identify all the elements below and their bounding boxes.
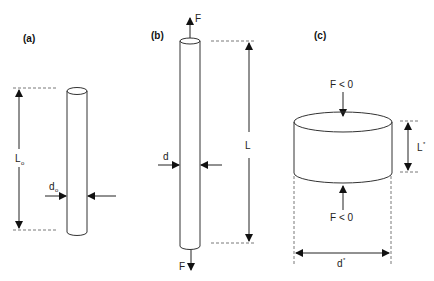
stretched-specimen [180, 38, 200, 250]
diameter-label: d [163, 151, 169, 162]
panel-a: (a) L o d o [13, 33, 116, 235]
compressed-specimen [294, 112, 392, 183]
original-specimen [67, 88, 87, 236]
panel-c: (c) F < 0 F < 0 L * [294, 30, 426, 269]
diameter-label: d [49, 181, 55, 192]
compressive-force-bottom: F < 0 [330, 186, 354, 223]
force-label-bottom: F < 0 [330, 212, 354, 223]
diameter-label: d [337, 258, 343, 269]
diameter-dimension-d: d [158, 151, 222, 165]
length-dimension-l: L [245, 43, 251, 241]
diameter-dimension-d-star: d * [296, 253, 389, 269]
tension-compression-diagram: (a) L o d o (b) F [0, 0, 434, 281]
panel-b-label: (b) [151, 30, 164, 41]
svg-text:o: o [21, 160, 25, 166]
tensile-force-top: F [190, 13, 201, 38]
diameter-dimension-do: d o [45, 181, 116, 196]
svg-text:*: * [343, 257, 346, 263]
panel-b: (b) F F L d [151, 13, 256, 272]
panel-a-label: (a) [23, 33, 35, 44]
svg-text:*: * [423, 141, 426, 147]
panel-c-label: (c) [314, 30, 326, 41]
force-label-top: F [195, 13, 201, 24]
force-label-top: F < 0 [330, 79, 354, 90]
length-label: L [245, 140, 251, 151]
tensile-force-bottom: F [179, 250, 191, 272]
length-dimension-l-star: L * [408, 123, 426, 170]
svg-text:o: o [55, 187, 59, 193]
compressive-force-top: F < 0 [330, 79, 354, 116]
length-dimension-lo: L o [15, 90, 25, 228]
force-label-bottom: F [179, 261, 185, 272]
